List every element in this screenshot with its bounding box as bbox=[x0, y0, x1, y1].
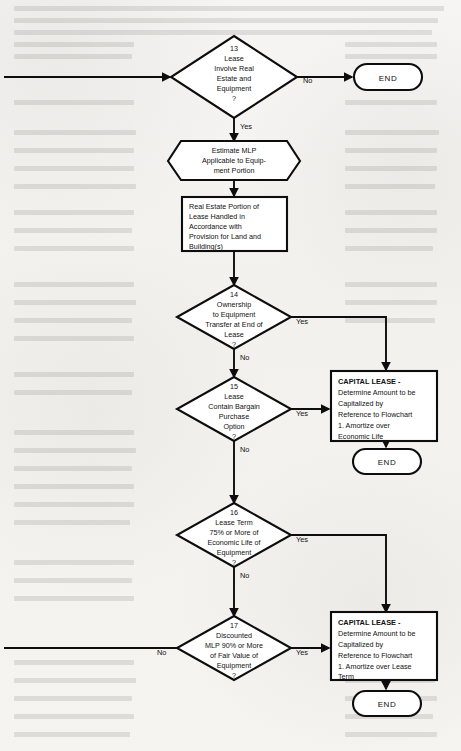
decision-13-line5: ? bbox=[232, 94, 236, 103]
estimate-mlp-line3: ment Portion bbox=[214, 166, 255, 175]
decision-node-13[interactable]: 13 Lease Involve Real Estate and Equipme… bbox=[171, 36, 312, 131]
decision-17-no-label: No bbox=[157, 648, 166, 657]
capital-lease-1-line4: 1. Amortize over bbox=[338, 421, 391, 430]
decision-13-line2: Involve Real bbox=[214, 64, 254, 73]
decision-14-line2: to Equipment bbox=[213, 310, 255, 319]
decision-17-line5: ? bbox=[232, 671, 236, 680]
process-estimate-mlp[interactable]: Estimate MLP Applicable to Equip- ment P… bbox=[168, 141, 300, 180]
capital-lease-1-line3: Reference to Flowchart bbox=[338, 410, 412, 419]
decision-17-line4: Equipment bbox=[217, 661, 251, 670]
decision-15-line1: Lease bbox=[224, 392, 244, 401]
decision-node-15[interactable]: 15 Lease Contain Bargain Purchase Option… bbox=[177, 377, 308, 454]
capital-lease-2-line4: 1. Amortize over Lease bbox=[338, 662, 412, 671]
decision-13-line1: Lease bbox=[224, 54, 244, 63]
decision-16-line4: Equipment bbox=[217, 548, 251, 557]
decision-13-yes-label: Yes bbox=[240, 122, 252, 131]
decision-16-no-label: No bbox=[240, 571, 249, 580]
process-real-estate-portion[interactable]: Real Estate Portion of Lease Handled in … bbox=[182, 197, 287, 251]
decision-node-17[interactable]: 17 Discounted MLP 90% or More of Fair Va… bbox=[157, 616, 308, 680]
decision-15-line2: Contain Bargain bbox=[208, 402, 260, 411]
decision-15-yes-label: Yes bbox=[296, 409, 308, 418]
capital-lease-1-line1: Determine Amount to be bbox=[338, 388, 416, 397]
decision-17-yes-label: Yes bbox=[296, 648, 308, 657]
decision-14-yes-label: Yes bbox=[296, 317, 308, 326]
decision-node-14[interactable]: 14 Ownership to Equipment Transfer at En… bbox=[177, 285, 308, 362]
decision-13-line4: Equipment bbox=[217, 84, 251, 93]
real-estate-line4: Provision for Land and bbox=[189, 232, 261, 241]
capital-lease-2-line2: Capitalized by bbox=[338, 640, 384, 649]
decision-14-line1: Ownership bbox=[217, 300, 251, 309]
real-estate-line5: Building(s) bbox=[189, 242, 223, 251]
decision-16-line5: ? bbox=[232, 558, 236, 567]
real-estate-line1: Real Estate Portion of bbox=[189, 202, 259, 211]
decision-15-no-label: No bbox=[240, 445, 249, 454]
decision-14-number: 14 bbox=[230, 290, 238, 299]
capital-lease-2-heading: CAPITAL LEASE - bbox=[338, 618, 401, 627]
decision-16-yes-label: Yes bbox=[296, 535, 308, 544]
terminal-end-middle[interactable]: END bbox=[353, 449, 421, 474]
decision-14-line4: Lease bbox=[224, 330, 244, 339]
decision-16-number: 16 bbox=[230, 508, 238, 517]
decision-13-line3: Estate and bbox=[217, 74, 251, 83]
decision-15-number: 15 bbox=[230, 382, 238, 391]
decision-17-line2: MLP 90% or More bbox=[205, 641, 263, 650]
end-bottom-label: END bbox=[378, 700, 397, 709]
capital-lease-1-heading: CAPITAL LEASE - bbox=[338, 377, 401, 386]
estimate-mlp-line1: Estimate MLP bbox=[212, 146, 257, 155]
decision-16-line2: 75% or More of bbox=[209, 528, 258, 537]
process-capital-lease-1[interactable]: CAPITAL LEASE - Determine Amount to be C… bbox=[331, 371, 437, 441]
connector-d16-yes-to-cap2 bbox=[291, 535, 386, 612]
decision-14-line3: Transfer at End of bbox=[205, 320, 262, 329]
flowchart-canvas: 13 Lease Involve Real Estate and Equipme… bbox=[0, 0, 461, 751]
terminal-end-top[interactable]: END bbox=[354, 64, 422, 90]
decision-15-line3: Purchase bbox=[219, 412, 249, 421]
decision-17-number: 17 bbox=[230, 621, 238, 630]
decision-15-line4: Option bbox=[223, 422, 244, 431]
decision-13-no-label: No bbox=[303, 76, 312, 85]
decision-16-line3: Economic Life of bbox=[207, 538, 260, 547]
real-estate-line3: Accordance with bbox=[189, 222, 242, 231]
decision-node-16[interactable]: 16 Lease Term 75% or More of Economic Li… bbox=[177, 503, 308, 580]
capital-lease-1-line5: Economic Life bbox=[338, 432, 383, 441]
decision-17-line1: Discounted bbox=[216, 631, 252, 640]
decision-15-line5: ? bbox=[232, 432, 236, 441]
flowchart-page: 13 Lease Involve Real Estate and Equipme… bbox=[0, 0, 461, 751]
capital-lease-2-line5: Term bbox=[338, 672, 354, 681]
real-estate-line2: Lease Handled in bbox=[189, 212, 245, 221]
capital-lease-1-line2: Capitalized by bbox=[338, 399, 384, 408]
estimate-mlp-line2: Applicable to Equip- bbox=[202, 156, 267, 165]
decision-16-line1: Lease Term bbox=[215, 518, 252, 527]
process-capital-lease-2[interactable]: CAPITAL LEASE - Determine Amount to be C… bbox=[331, 612, 437, 681]
terminal-end-bottom[interactable]: END bbox=[353, 691, 421, 716]
decision-14-line5: ? bbox=[232, 340, 236, 349]
end-top-label: END bbox=[379, 74, 398, 83]
capital-lease-2-line3: Reference to Flowchart bbox=[338, 651, 412, 660]
decision-14-no-label: No bbox=[240, 353, 249, 362]
capital-lease-2-line1: Determine Amount to be bbox=[338, 629, 416, 638]
decision-17-line3: of Fair Value of bbox=[210, 651, 258, 660]
decision-13-number: 13 bbox=[230, 44, 238, 53]
end-middle-label: END bbox=[378, 458, 397, 467]
